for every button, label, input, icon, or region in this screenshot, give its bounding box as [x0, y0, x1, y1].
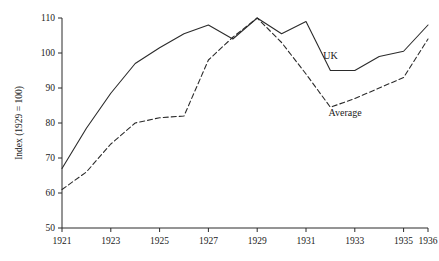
y-axis-ticks: 5060708090100110: [41, 13, 62, 233]
y-tick-label-70: 70: [46, 153, 56, 163]
x-tick-label-1927: 1927: [199, 236, 218, 246]
series-line-average: [62, 18, 428, 190]
x-tick-label-1929: 1929: [248, 236, 267, 246]
x-tick-label-1936: 1936: [419, 236, 438, 246]
y-tick-label-110: 110: [41, 13, 55, 23]
series-line-uk: [62, 18, 428, 169]
chart-container: 5060708090100110 19211923192519271929193…: [0, 0, 439, 261]
x-tick-label-1925: 1925: [150, 236, 169, 246]
x-tick-label-1923: 1923: [101, 236, 120, 246]
series-annotation-uk: UK: [323, 50, 338, 61]
chart-series: [62, 18, 428, 190]
y-tick-label-60: 60: [46, 188, 56, 198]
x-tick-label-1933: 1933: [345, 236, 364, 246]
x-axis-ticks: 192119231925192719291931193319351936: [53, 228, 438, 246]
x-tick-label-1931: 1931: [297, 236, 316, 246]
y-tick-label-80: 80: [46, 118, 56, 128]
y-axis-title: Index (1929 = 100): [14, 86, 25, 160]
line-chart: 5060708090100110 19211923192519271929193…: [0, 0, 439, 261]
y-tick-label-90: 90: [46, 83, 56, 93]
chart-annotations: UKAverage: [323, 50, 362, 118]
chart-axes: [62, 18, 428, 228]
y-tick-label-50: 50: [46, 223, 56, 233]
x-tick-label-1921: 1921: [53, 236, 72, 246]
series-annotation-average: Average: [328, 107, 362, 118]
y-tick-label-100: 100: [41, 48, 56, 58]
x-tick-label-1935: 1935: [394, 236, 413, 246]
